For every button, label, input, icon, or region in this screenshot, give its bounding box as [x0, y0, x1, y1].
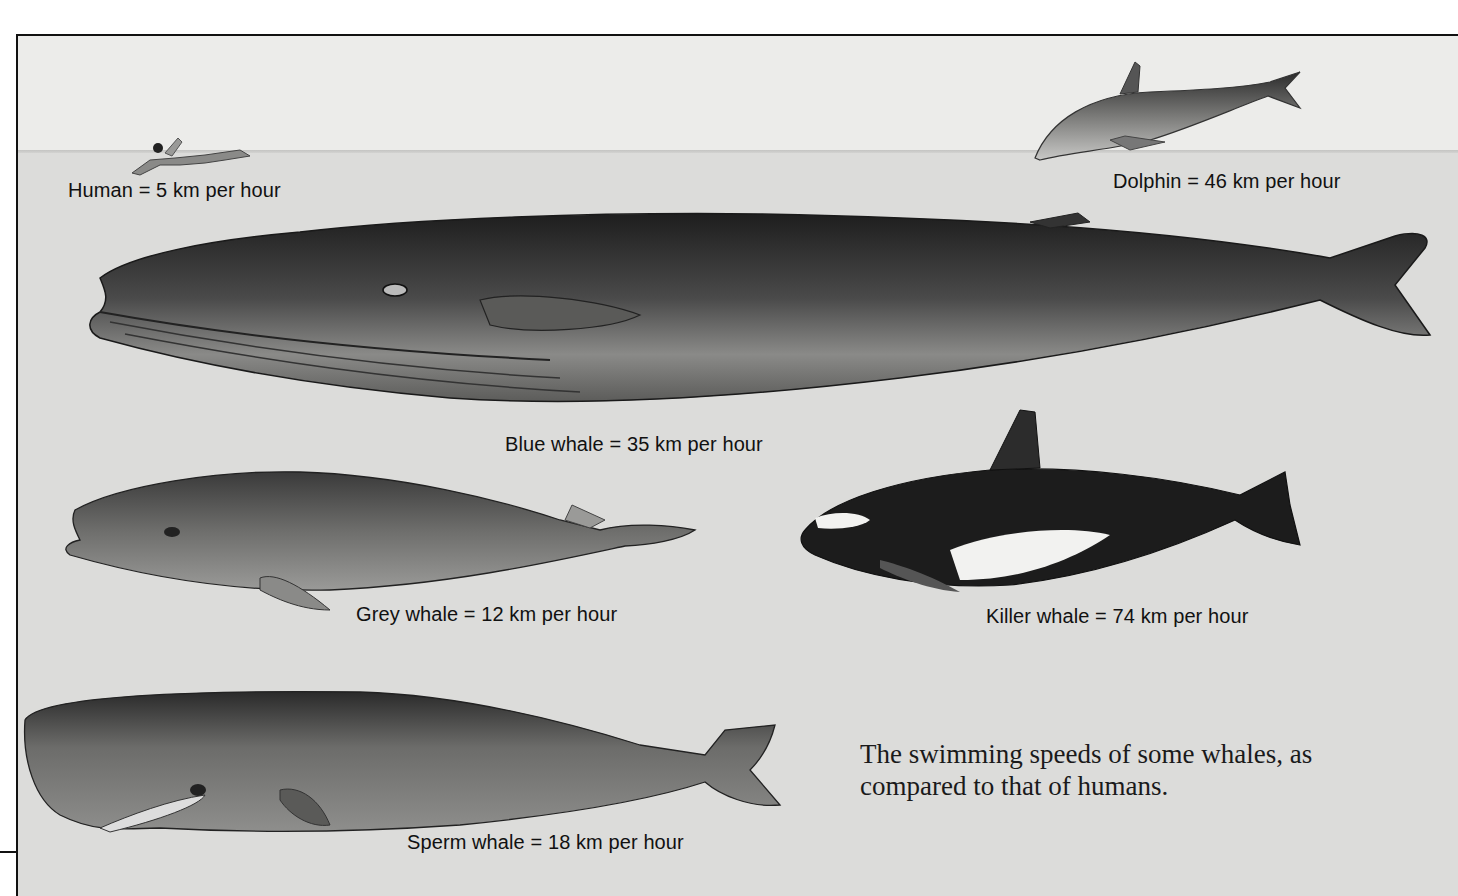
dolphin-illustration	[1035, 62, 1300, 160]
grey-whale-speed-label: Grey whale = 12 km per hour	[356, 603, 617, 626]
sperm-whale-speed-label: Sperm whale = 18 km per hour	[407, 831, 684, 854]
grey-whale-illustration	[66, 472, 695, 610]
dolphin-speed-label: Dolphin = 46 km per hour	[1113, 170, 1341, 193]
killer-whale-speed-label: Killer whale = 74 km per hour	[986, 605, 1248, 628]
swimmer-illustration	[132, 138, 250, 175]
sperm-whale-illustration	[25, 692, 780, 832]
blue-whale-speed-label: Blue whale = 35 km per hour	[505, 433, 763, 456]
figure-caption: The swimming speeds of some whales, as c…	[860, 738, 1420, 802]
killer-whale-illustration	[801, 410, 1300, 592]
blue-whale-illustration	[90, 213, 1430, 401]
human-speed-label: Human = 5 km per hour	[68, 179, 281, 202]
